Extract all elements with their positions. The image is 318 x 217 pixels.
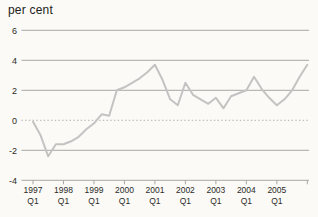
x-axis-label-year: 1998 (54, 185, 73, 195)
chart-container: per cent 6420-2-41997Q11998Q11999Q12000Q… (0, 0, 318, 217)
x-axis-label-year: 2005 (267, 185, 286, 195)
x-axis-label-year: 2001 (145, 185, 164, 195)
y-axis-label: 4 (12, 56, 17, 66)
x-axis-label-quarter: Q1 (27, 196, 39, 206)
line-chart-canvas: 6420-2-41997Q11998Q11999Q12000Q12001Q120… (0, 0, 318, 217)
y-axis-label: 0 (12, 116, 17, 126)
x-axis-label-quarter: Q1 (119, 196, 131, 206)
y-axis-label: 6 (12, 26, 17, 36)
x-axis-label-quarter: Q1 (241, 196, 253, 206)
x-axis-label-quarter: Q1 (58, 196, 70, 206)
x-axis-label-year: 2000 (115, 185, 134, 195)
y-axis-label: -2 (9, 146, 17, 156)
x-axis-label-quarter: Q1 (88, 196, 100, 206)
x-axis-label-quarter: Q1 (271, 196, 283, 206)
x-axis-label-year: 2004 (237, 185, 256, 195)
x-axis-label-quarter: Q1 (210, 196, 222, 206)
x-axis-label-year: 1999 (84, 185, 103, 195)
x-axis-label-year: 1997 (24, 185, 43, 195)
series-line (33, 65, 307, 157)
y-axis-label: -4 (9, 176, 17, 186)
y-axis-label: 2 (12, 86, 17, 96)
x-axis-label-year: 2002 (176, 185, 195, 195)
x-axis-label-year: 2003 (206, 185, 225, 195)
x-axis-label-quarter: Q1 (149, 196, 161, 206)
x-axis-label-quarter: Q1 (180, 196, 192, 206)
